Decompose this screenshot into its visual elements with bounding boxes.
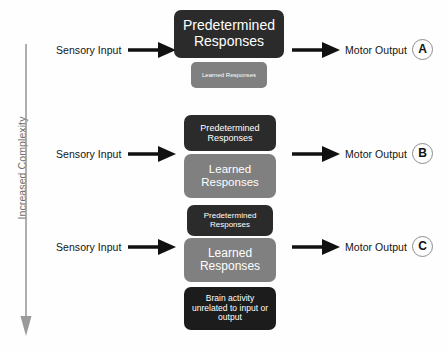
row-b-predetermined-responses-box[interactable]: Predetermined Responses <box>184 115 276 151</box>
row-a: Sensory Input Predetermined Responses Le… <box>0 0 447 100</box>
row-a-predetermined-responses-box[interactable]: Predetermined Responses <box>174 10 284 58</box>
row-c-sensory-input-label: Sensory Input <box>56 241 121 253</box>
row-b-motor-output-label: Motor Output <box>345 148 407 160</box>
diagram-canvas: Increased Complexity Sensory Input Prede… <box>0 0 447 350</box>
row-b-input-arrow-icon <box>128 145 176 163</box>
row-c-motor-output-label: Motor Output <box>345 241 407 253</box>
row-c-predetermined-responses-text: Predetermined Responses <box>190 212 270 230</box>
row-c-output-arrow-icon <box>292 238 340 256</box>
row-a-output-arrow-icon <box>292 41 340 59</box>
row-c-learned-responses-box[interactable]: Learned Responses <box>184 238 276 282</box>
row-a-learned-responses-text: Learned Responses <box>194 72 264 79</box>
row-a-badge: A <box>412 39 433 60</box>
row-b-badge: B <box>412 143 433 164</box>
row-b-box-stack: Predetermined Responses Learned Response… <box>184 115 276 201</box>
row-a-sensory-input-label: Sensory Input <box>56 44 121 56</box>
row-c-badge: C <box>412 236 433 257</box>
row-a-input-arrow-icon <box>128 41 176 59</box>
row-c-predetermined-responses-box[interactable]: Predetermined Responses <box>187 205 273 236</box>
row-c-brain-activity-box[interactable]: Brain activity unrelated to input or out… <box>184 287 276 330</box>
row-c-box-stack: Predetermined Responses Learned Response… <box>184 205 276 330</box>
row-c-brain-activity-text: Brain activity unrelated to input or out… <box>187 294 273 323</box>
row-c: Sensory Input Predetermined Responses Le… <box>0 200 447 350</box>
row-b: Sensory Input Predetermined Responses Le… <box>0 100 447 200</box>
row-a-learned-responses-box[interactable]: Learned Responses <box>191 62 267 88</box>
row-a-motor-output-label: Motor Output <box>345 44 407 56</box>
row-b-learned-responses-text: Learned Responses <box>187 163 273 189</box>
row-b-predetermined-responses-text: Predetermined Responses <box>187 123 273 143</box>
row-a-box-stack: Predetermined Responses Learned Response… <box>174 10 284 88</box>
row-b-output-arrow-icon <box>292 145 340 163</box>
row-a-predetermined-responses-text: Predetermined Responses <box>177 18 281 49</box>
row-c-learned-responses-text: Learned Responses <box>187 247 273 274</box>
row-b-sensory-input-label: Sensory Input <box>56 148 121 160</box>
row-b-learned-responses-box[interactable]: Learned Responses <box>184 154 276 198</box>
row-c-input-arrow-icon <box>128 238 176 256</box>
